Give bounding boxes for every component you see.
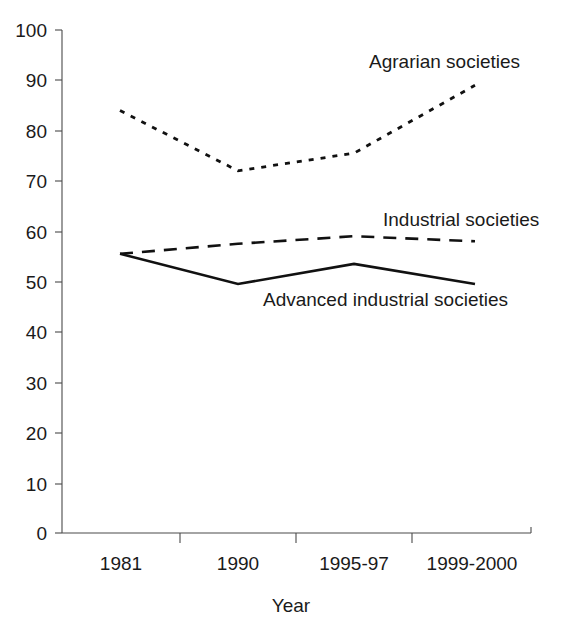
x-tick-marks	[180, 533, 412, 543]
y-tick-label: 10	[26, 474, 47, 495]
y-tick-label: 80	[26, 121, 47, 142]
x-tick-label: 1981	[100, 553, 142, 574]
y-tick-label: 50	[26, 272, 47, 293]
series-label-industrial-societies: Industrial societies	[383, 209, 539, 230]
y-tick-label: 70	[26, 171, 47, 192]
x-axis-title: Year	[272, 595, 311, 616]
y-tick-labels: 100 90 80 70 60 50 40 30 20 10 0	[15, 20, 47, 544]
y-tick-marks	[55, 30, 62, 533]
series-label-advanced-industrial-societies: Advanced industrial societies	[263, 289, 508, 310]
line-chart: 100 90 80 70 60 50 40 30 20 10 0 1981 19…	[0, 0, 582, 626]
x-tick-label: 1995-97	[319, 553, 389, 574]
y-tick-label: 60	[26, 222, 47, 243]
chart-container: 100 90 80 70 60 50 40 30 20 10 0 1981 19…	[0, 0, 582, 626]
x-tick-label: 1999-2000	[427, 553, 518, 574]
y-tick-label: 100	[15, 20, 47, 41]
y-tick-label: 20	[26, 423, 47, 444]
x-tick-label: 1990	[217, 553, 259, 574]
series-line-industrial-societies	[120, 236, 475, 254]
series-line-advanced-industrial-societies	[120, 254, 475, 284]
y-tick-label: 90	[26, 70, 47, 91]
y-tick-label: 0	[36, 523, 47, 544]
y-tick-label: 30	[26, 373, 47, 394]
series-label-agrarian-societies: Agrarian societies	[369, 51, 520, 72]
y-tick-label: 40	[26, 322, 47, 343]
series-line-agrarian-societies	[120, 85, 475, 171]
x-tick-labels: 1981 1990 1995-97 1999-2000	[100, 553, 518, 574]
